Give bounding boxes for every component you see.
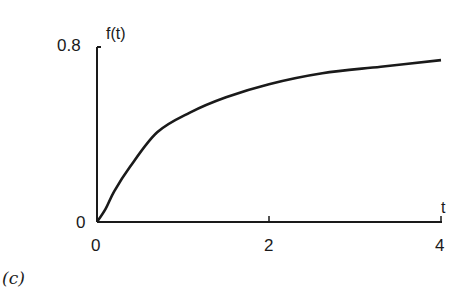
y-tick-label-bottom: 0: [76, 214, 85, 231]
x-tick-label-4: 4: [435, 237, 444, 254]
y-tick-label-top: 0.8: [57, 37, 81, 54]
data-curve: [97, 60, 441, 222]
panel-label: (c): [2, 268, 25, 288]
y-axis-label: f(t): [106, 26, 126, 42]
x-axis-label: t: [441, 200, 445, 216]
x-tick-label-0: 0: [91, 237, 100, 254]
x-tick-label-2: 2: [264, 237, 273, 254]
